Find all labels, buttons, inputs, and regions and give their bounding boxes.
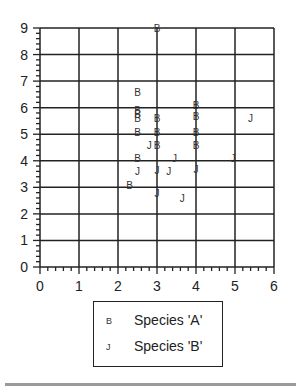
y-tick-label: 8 [20, 47, 28, 63]
legend-marker-b: B [106, 316, 112, 326]
y-tick-label: 5 [20, 126, 28, 142]
data-point-marker: B [154, 127, 161, 138]
data-point-marker: B [154, 23, 161, 34]
data-point-marker: B [154, 113, 161, 124]
data-point-marker: B [193, 140, 200, 151]
legend-label-species-b: Species 'B' [134, 338, 202, 354]
y-tick-label: 9 [20, 20, 28, 36]
data-point-marker: B [126, 180, 133, 191]
scatter-chart: 0123456 0123456789 BBBBBBBBBBBBBBBJJJJJJ… [0, 0, 296, 300]
y-tick-label: 2 [20, 206, 28, 222]
y-tick-label: 1 [20, 232, 28, 248]
data-point-marker: J [147, 140, 152, 151]
data-point-marker: B [154, 140, 161, 151]
x-tick-label: 3 [153, 278, 161, 294]
x-tick-label: 2 [114, 278, 122, 294]
x-tick-label: 5 [231, 278, 239, 294]
y-tick-label: 3 [20, 179, 28, 195]
legend-item-species-b: J Species 'B' [94, 338, 222, 360]
data-point-marker: J [155, 165, 160, 176]
y-tick-label: 0 [20, 259, 28, 275]
data-point-marker: J [194, 164, 199, 175]
legend-marker-j: J [106, 342, 111, 352]
x-tick-label: 0 [36, 278, 44, 294]
x-tick-label: 1 [75, 278, 83, 294]
y-axis-tick-labels: 0123456789 [20, 20, 28, 275]
data-point-marker: J [231, 153, 236, 164]
data-point-marker: B [193, 111, 200, 122]
data-point-marker: J [155, 188, 160, 199]
data-point-marker: J [248, 113, 253, 124]
y-tick-label: 4 [20, 153, 28, 169]
data-point-marker: B [134, 113, 141, 124]
legend-label-species-a: Species 'A' [134, 312, 202, 328]
legend-item-species-a: B Species 'A' [94, 312, 222, 334]
x-tick-label: 6 [270, 278, 278, 294]
axis-ticks [33, 28, 274, 274]
data-point-marker: J [180, 193, 185, 204]
y-tick-label: 6 [20, 100, 28, 116]
data-point-marker: J [166, 166, 171, 177]
data-point-marker: J [172, 153, 177, 164]
data-point-marker: B [134, 127, 141, 138]
data-point-marker: B [193, 127, 200, 138]
data-point-marker: B [134, 87, 141, 98]
bottom-divider [5, 383, 296, 386]
y-tick-label: 7 [20, 73, 28, 89]
x-axis-tick-labels: 0123456 [36, 278, 278, 294]
data-point-marker: B [193, 100, 200, 111]
legend: B Species 'A' J Species 'B' [93, 301, 223, 367]
data-points: BBBBBBBBBBBBBBBJJJJJJJJJJ [126, 23, 253, 204]
data-point-marker: J [135, 166, 140, 177]
x-tick-label: 4 [192, 278, 200, 294]
data-point-marker: B [134, 153, 141, 164]
